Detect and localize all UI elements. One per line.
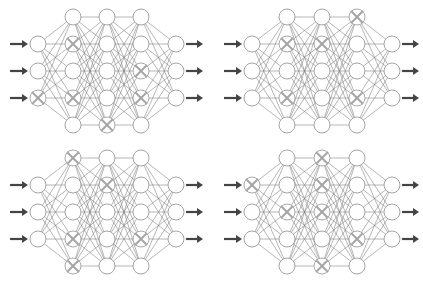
connection-edge bbox=[141, 44, 176, 125]
output-arrow-icon bbox=[186, 208, 203, 216]
neuron bbox=[65, 63, 81, 79]
input-arrow-icon bbox=[10, 94, 28, 102]
neuron bbox=[168, 231, 184, 247]
dropped-neuron bbox=[133, 63, 149, 79]
neuron bbox=[349, 204, 365, 220]
dropped-neuron bbox=[65, 258, 81, 274]
neuron bbox=[133, 117, 149, 133]
connection-edge bbox=[357, 185, 392, 266]
dropped-neuron bbox=[65, 231, 81, 247]
dropped-neuron bbox=[65, 36, 81, 52]
dropout-figure bbox=[0, 0, 423, 289]
neuron bbox=[384, 204, 400, 220]
neuron bbox=[99, 90, 115, 106]
input-arrow-icon bbox=[10, 235, 28, 243]
neuron bbox=[99, 63, 115, 79]
neuron bbox=[279, 231, 295, 247]
neuron bbox=[30, 63, 46, 79]
output-arrow-icon bbox=[402, 208, 419, 216]
neuron bbox=[349, 177, 365, 193]
neuron bbox=[279, 9, 295, 25]
dropped-neuron bbox=[314, 150, 330, 166]
neuron bbox=[384, 90, 400, 106]
connection-edge bbox=[252, 158, 287, 239]
dropped-neuron bbox=[349, 9, 365, 25]
dropped-neuron bbox=[314, 36, 330, 52]
networks-canvas bbox=[0, 0, 423, 289]
connection-edge bbox=[357, 44, 392, 125]
neuron bbox=[30, 231, 46, 247]
neuron bbox=[99, 204, 115, 220]
connection-edge bbox=[38, 158, 73, 239]
output-arrow-icon bbox=[402, 94, 419, 102]
neuron bbox=[244, 231, 260, 247]
output-arrow-icon bbox=[186, 181, 203, 189]
input-arrow-icon bbox=[10, 40, 28, 48]
neuron bbox=[279, 177, 295, 193]
dropped-neuron bbox=[99, 177, 115, 193]
input-arrow-icon bbox=[10, 208, 28, 216]
neuron bbox=[384, 177, 400, 193]
connection-edge bbox=[141, 185, 176, 266]
neuron bbox=[314, 63, 330, 79]
output-arrow-icon bbox=[186, 235, 203, 243]
output-arrow-icon bbox=[402, 40, 419, 48]
neuron bbox=[279, 63, 295, 79]
dropped-neuron bbox=[133, 90, 149, 106]
neuron bbox=[133, 150, 149, 166]
output-arrow-icon bbox=[186, 67, 203, 75]
neuron bbox=[65, 117, 81, 133]
dropped-neuron bbox=[314, 258, 330, 274]
neuron bbox=[30, 204, 46, 220]
neuron bbox=[133, 9, 149, 25]
neuron bbox=[65, 9, 81, 25]
input-arrow-icon bbox=[224, 235, 242, 243]
neuron bbox=[168, 90, 184, 106]
connection-edge bbox=[38, 17, 73, 98]
neuron bbox=[133, 204, 149, 220]
dropped-neuron bbox=[349, 231, 365, 247]
neuron bbox=[349, 258, 365, 274]
dropped-neuron bbox=[279, 36, 295, 52]
dropped-neuron bbox=[244, 177, 260, 193]
dropped-neuron bbox=[279, 204, 295, 220]
neuron bbox=[349, 63, 365, 79]
network-top-left bbox=[10, 9, 203, 133]
neuron bbox=[244, 63, 260, 79]
dropped-neuron bbox=[65, 90, 81, 106]
neuron bbox=[168, 204, 184, 220]
neuron bbox=[168, 63, 184, 79]
output-arrow-icon bbox=[402, 67, 419, 75]
dropped-neuron bbox=[279, 90, 295, 106]
neuron bbox=[99, 36, 115, 52]
input-arrow-icon bbox=[224, 67, 242, 75]
dropped-neuron bbox=[314, 204, 330, 220]
neuron bbox=[99, 258, 115, 274]
neuron bbox=[384, 36, 400, 52]
neuron bbox=[99, 231, 115, 247]
neuron bbox=[244, 204, 260, 220]
neuron bbox=[168, 177, 184, 193]
neuron bbox=[349, 150, 365, 166]
network-bottom-right bbox=[224, 150, 419, 274]
neuron bbox=[349, 36, 365, 52]
output-arrow-icon bbox=[402, 235, 419, 243]
neuron bbox=[279, 258, 295, 274]
neuron bbox=[30, 177, 46, 193]
neuron bbox=[244, 36, 260, 52]
input-arrow-icon bbox=[10, 181, 28, 189]
neuron bbox=[279, 117, 295, 133]
network-top-right bbox=[224, 9, 419, 133]
neuron bbox=[65, 204, 81, 220]
neuron bbox=[349, 117, 365, 133]
output-arrow-icon bbox=[186, 94, 203, 102]
neuron bbox=[314, 9, 330, 25]
neuron bbox=[133, 258, 149, 274]
neuron bbox=[384, 63, 400, 79]
neuron bbox=[30, 36, 46, 52]
neuron bbox=[244, 90, 260, 106]
output-arrow-icon bbox=[402, 181, 419, 189]
neuron bbox=[314, 231, 330, 247]
neuron bbox=[99, 9, 115, 25]
neuron bbox=[314, 90, 330, 106]
